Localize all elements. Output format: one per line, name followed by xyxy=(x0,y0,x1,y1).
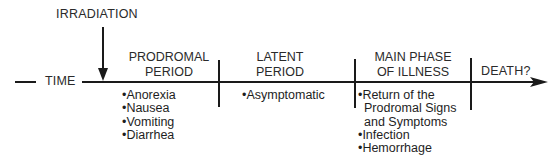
phase-title-latent: LATENT PERIOD xyxy=(230,50,330,80)
time-axis-label: TIME xyxy=(45,74,76,88)
phase-title-line: PRODROMAL xyxy=(116,50,222,65)
phase-title-line: PERIOD xyxy=(116,65,222,80)
list-item: •Nausea xyxy=(122,102,176,115)
symptom-list-latent: •Asymptomatic xyxy=(242,89,325,102)
list-item: •Return of the xyxy=(358,89,456,102)
symptom-list-main: •Return of the Prodromal Signs and Sympt… xyxy=(358,89,456,155)
list-item: •Anorexia xyxy=(122,89,176,102)
list-item: •Diarrhea xyxy=(122,129,176,142)
irradiation-label: IRRADIATION xyxy=(56,7,138,21)
phase-title-main: MAIN PHASE OF ILLNESS xyxy=(360,50,466,80)
list-item: •Asymptomatic xyxy=(242,89,325,102)
list-item: •Infection xyxy=(358,129,456,142)
list-item: Prodromal Signs xyxy=(358,102,456,115)
phase-title-line: OF ILLNESS xyxy=(360,65,466,80)
phase-title-death: DEATH? xyxy=(481,64,531,78)
list-item: •Hemorrhage xyxy=(358,142,456,155)
timeline-graphic xyxy=(0,0,558,168)
list-item: and Symptoms xyxy=(358,116,456,129)
phase-title-line: MAIN PHASE xyxy=(360,50,466,65)
symptom-list-prodromal: •Anorexia •Nausea •Vomiting •Diarrhea xyxy=(122,89,176,142)
phase-title-line: LATENT xyxy=(230,50,330,65)
phase-title-prodromal: PRODROMAL PERIOD xyxy=(116,50,222,80)
irradiation-arrowhead-icon xyxy=(98,68,108,81)
list-item: •Vomiting xyxy=(122,116,176,129)
phase-title-line: PERIOD xyxy=(230,65,330,80)
